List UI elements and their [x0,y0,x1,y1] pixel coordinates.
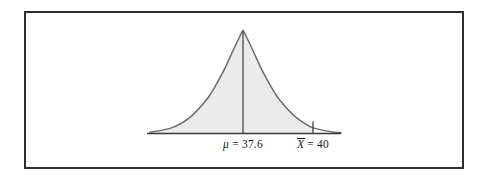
xbar-symbol: X [297,138,304,150]
figure-root: μ = 37.6 X = 40 [0,0,488,185]
mu-equals: = [229,138,242,150]
xbar-equals: = [304,138,317,150]
mean-axis-label: μ = 37.6 [223,138,263,150]
mu-value: 37.6 [242,138,263,150]
xbar-value: 40 [317,138,329,150]
sample-mean-axis-label: X = 40 [297,138,329,150]
